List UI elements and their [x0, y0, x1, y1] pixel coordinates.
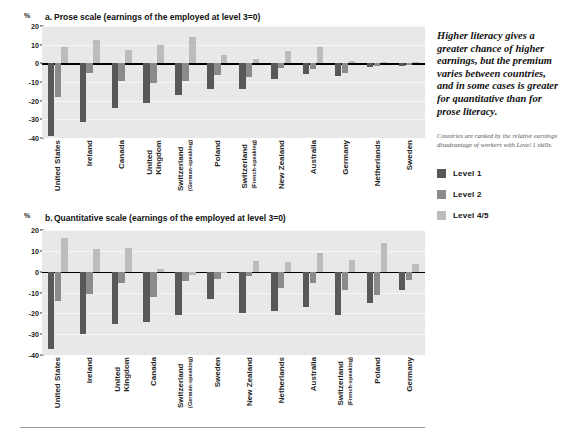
- bar-l2-4: [182, 63, 188, 81]
- bar-l1-8: [303, 63, 309, 73]
- label-line: Kingdom: [154, 140, 163, 175]
- x-axis-label-text: Australia: [309, 140, 318, 174]
- x-axis-label-text: Switzerland(French-speaking): [240, 140, 259, 189]
- y-tick-label: 10: [31, 246, 39, 255]
- x-axis-label-b-8: Australia: [297, 357, 329, 427]
- label-line: Switzerland: [176, 364, 185, 408]
- label-line: (French-speaking): [347, 357, 353, 406]
- x-axis-label-a-11: Sweden: [393, 140, 425, 206]
- bar-l3-3: [157, 269, 163, 272]
- bar-l1-7: [271, 272, 277, 312]
- legend-item-l3[interactable]: Level 4/5: [437, 211, 563, 220]
- label-line: Poland: [213, 140, 222, 167]
- bar-l2-5: [214, 63, 220, 74]
- bar-l3-5: [221, 55, 227, 63]
- label-line: Australia: [309, 357, 318, 391]
- bar-l3-6: [253, 59, 259, 64]
- gridline: [42, 101, 425, 102]
- pullquote: Higher literacy gives a greater chance o…: [437, 30, 563, 118]
- label-line: Ireland: [85, 140, 94, 166]
- legend-item-l2[interactable]: Level 2: [437, 190, 563, 199]
- bar-l2-3: [150, 272, 156, 297]
- bar-l2-4: [182, 272, 188, 281]
- x-axis-label-text: Switzerland(German-speaking): [176, 357, 195, 408]
- label-line: Netherlands: [373, 140, 382, 186]
- x-axis-label-b-2: UnitedKingdom: [106, 357, 138, 427]
- y-axis-b: 20100-10-20-30-40: [20, 230, 42, 355]
- sidebar: Higher literacy gives a greater chance o…: [437, 30, 563, 232]
- y-tick-label: -20: [29, 309, 39, 318]
- bar-l3-11: [412, 62, 418, 63]
- bar-l1-0: [48, 63, 54, 136]
- bar-l2-8: [310, 63, 316, 69]
- x-axis-label-text: Netherlands: [277, 357, 286, 403]
- bar-l1-3: [143, 63, 149, 103]
- label-line: New Zealand: [277, 140, 286, 189]
- x-axis-label-text: Canada: [117, 140, 126, 169]
- gridline: [42, 313, 425, 314]
- bar-l3-0: [61, 47, 67, 63]
- y-tick-label: 0: [35, 59, 39, 68]
- plot-area-a: 20100-10-20-30-40: [20, 26, 425, 138]
- x-axis-label-text: United States: [53, 357, 62, 408]
- x-axis-label-text: Germany: [341, 140, 350, 175]
- bar-l2-11: [406, 272, 412, 280]
- y-tick-label: 20: [31, 22, 39, 31]
- bars-canvas-a: [42, 26, 425, 138]
- label-line: Netherlands: [277, 357, 286, 403]
- bar-l1-5: [207, 63, 213, 88]
- x-axis-label-text: New Zealand: [245, 357, 254, 406]
- bar-l3-5: [221, 272, 227, 273]
- x-axis-label-text: Canada: [149, 357, 158, 386]
- x-axis-label-text: Sweden: [405, 140, 414, 170]
- bar-l2-6: [246, 272, 252, 276]
- bar-l1-8: [303, 272, 309, 307]
- x-axis-label-text: Ireland: [85, 140, 94, 166]
- bar-l1-1: [80, 272, 86, 335]
- label-line: Switzerland: [176, 147, 185, 191]
- label-line: Germany: [405, 357, 414, 392]
- label-line: Poland: [373, 357, 382, 384]
- legend-item-l1[interactable]: Level 1: [437, 169, 563, 178]
- bar-l2-3: [150, 63, 156, 83]
- x-axis-label-b-3: Canada: [138, 357, 170, 427]
- x-axis-label-a-10: Netherlands: [361, 140, 393, 206]
- bar-l3-4: [189, 272, 195, 275]
- bar-l2-2: [118, 272, 124, 283]
- x-axis-label-text: UnitedKingdom: [145, 140, 163, 175]
- panel-a-title: a.Prose scale (earnings of the employed …: [45, 12, 260, 22]
- bar-l3-10: [381, 243, 387, 272]
- bar-l1-7: [271, 63, 277, 79]
- x-axis-label-a-2: Canada: [106, 140, 138, 206]
- bar-l2-7: [278, 272, 284, 289]
- label-line: Switzerland: [336, 361, 345, 405]
- bar-l1-2: [112, 63, 118, 108]
- label-line: Germany: [341, 140, 350, 175]
- bar-l3-6: [253, 261, 259, 271]
- bottom-rule: [20, 427, 425, 428]
- bar-l3-4: [189, 37, 195, 63]
- bar-l3-1: [93, 40, 99, 63]
- panel-b-letter: b.: [45, 213, 54, 223]
- panel-a-title-text: Prose scale (earnings of the employed at…: [54, 12, 260, 22]
- bar-l3-8: [317, 253, 323, 272]
- bar-l3-9: [349, 61, 355, 63]
- x-axis-label-text: Poland: [373, 357, 382, 384]
- label-line: Sweden: [405, 140, 414, 170]
- x-axis-label-a-4: Switzerland(German-speaking): [170, 140, 202, 206]
- bar-l1-10: [367, 63, 373, 67]
- y-tick-label: -20: [29, 96, 39, 105]
- bar-l3-1: [93, 249, 99, 272]
- bar-l1-4: [175, 63, 181, 95]
- label-line: United States: [53, 357, 62, 408]
- bar-l1-3: [143, 272, 149, 322]
- x-axis-label-a-1: Ireland: [74, 140, 106, 206]
- label-line: Canada: [149, 357, 158, 386]
- x-axis-label-b-11: Germany: [393, 357, 425, 427]
- bar-l1-1: [80, 63, 86, 122]
- legend-swatch-icon: [437, 169, 446, 178]
- label-line: New Zealand: [245, 357, 254, 406]
- panel-a-letter: a.: [45, 12, 54, 22]
- gridline: [42, 334, 425, 335]
- bar-l1-6: [239, 63, 245, 89]
